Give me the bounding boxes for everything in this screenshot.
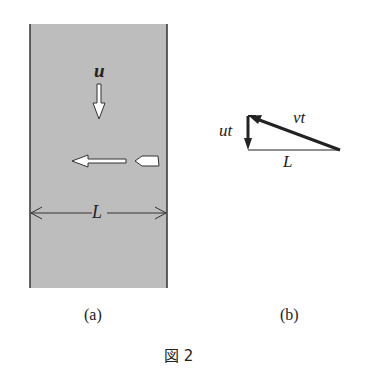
vertical-arrowhead-icon: [244, 138, 252, 150]
base-label: L: [283, 152, 292, 172]
width-label: L: [92, 202, 102, 223]
vertical-vector-label: ut: [219, 121, 232, 141]
vector-triangle: [244, 115, 340, 150]
panel-b-label: (b): [280, 306, 299, 324]
current-label: u: [94, 60, 105, 82]
panel-a-label: (a): [84, 306, 102, 324]
figure-caption: 図 2: [164, 344, 193, 365]
figure-drawing: [0, 0, 369, 374]
hypotenuse-vector-label: vt: [293, 108, 305, 128]
